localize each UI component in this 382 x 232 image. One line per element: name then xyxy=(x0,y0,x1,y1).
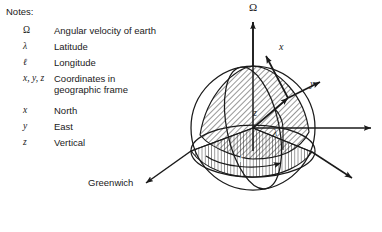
greenwich-label: Greenwich xyxy=(88,177,133,188)
y-axis-arrow xyxy=(288,82,320,98)
x-axis-label: x xyxy=(279,41,283,52)
z-axis-label: z xyxy=(253,107,257,118)
longitude-label: ℓ xyxy=(239,153,243,164)
equator-node-arrow xyxy=(312,152,352,178)
sphere-svg xyxy=(0,0,382,232)
y-axis-label: y xyxy=(310,78,314,89)
earth-sphere-diagram: Ω x y z λ ℓ Greenwich xyxy=(0,0,382,232)
latitude-label: λ xyxy=(273,128,277,138)
greenwich-arrow xyxy=(146,151,191,183)
omega-label: Ω xyxy=(249,1,257,13)
figure-root: Notes: Ω Angular velocity of earth λ Lat… xyxy=(0,0,382,232)
